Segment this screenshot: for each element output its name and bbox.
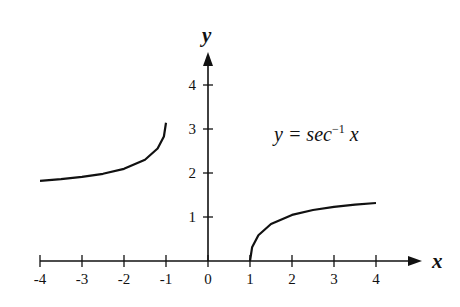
x-tick-label: -4 — [34, 271, 47, 287]
eq-sup: −1 — [332, 122, 345, 136]
x-tick-label: 2 — [288, 271, 296, 287]
x-tick-label: 4 — [372, 271, 380, 287]
y-ticks: 1234 — [189, 77, 214, 225]
x-tick-label: 1 — [246, 271, 254, 287]
curve — [40, 123, 166, 181]
x-tick-label: 0 — [204, 271, 212, 287]
curve — [250, 203, 376, 261]
y-axis-arrow-icon — [203, 52, 213, 66]
y-axis-label: y — [199, 23, 212, 47]
x-tick-label: 3 — [330, 271, 338, 287]
x-tick-label: -1 — [160, 271, 173, 287]
x-axis-arrow-icon — [408, 256, 422, 266]
y-tick-label: 2 — [189, 165, 197, 181]
axes — [40, 52, 422, 266]
x-axis-label: x — [431, 249, 443, 273]
y-tick-label: 3 — [189, 121, 197, 137]
equation-annotation: y = sec−1x — [272, 122, 359, 146]
chart: -4-3-2-101234 1234 x y y = sec−1x — [0, 0, 460, 307]
eq-prefix: y = sec — [272, 123, 332, 146]
x-tick-label: -2 — [118, 271, 131, 287]
x-tick-label: -3 — [76, 271, 89, 287]
eq-var: x — [349, 123, 359, 145]
y-tick-label: 1 — [189, 209, 197, 225]
x-ticks: -4-3-2-101234 — [34, 255, 381, 287]
y-tick-label: 4 — [189, 77, 197, 93]
